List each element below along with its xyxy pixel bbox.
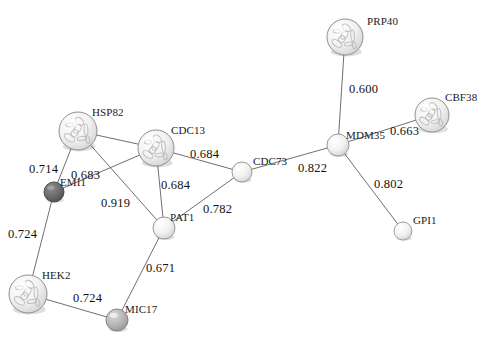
edge-prp40-mdm35[interactable]	[339, 54, 344, 135]
node-highlight	[331, 138, 339, 143]
edge-hsp82-cdc13[interactable]	[96, 135, 140, 145]
edge-score-label: 0.684	[190, 147, 219, 162]
edge-score-label: 0.671	[146, 261, 175, 276]
edge-score-label: 0.714	[29, 162, 58, 177]
node-highlight	[144, 136, 157, 144]
node-highlight	[333, 25, 346, 33]
node-label-mic17: MIC17	[125, 303, 157, 315]
node-circle[interactable]	[394, 222, 412, 240]
node-label-prp40: PRP40	[367, 15, 398, 27]
edge-score-label: 0.802	[374, 177, 403, 192]
node-label-mdm35: MDM35	[346, 129, 385, 141]
node-highlight	[15, 282, 29, 290]
edge-score-label: 0.919	[101, 196, 130, 211]
node-cdc13[interactable]	[138, 130, 174, 167]
node-highlight	[235, 166, 242, 170]
node-label-pat1: PAT1	[170, 211, 194, 223]
node-label-cdc73: CDC73	[253, 155, 287, 167]
node-label-cdc13: CDC13	[171, 124, 205, 136]
node-label-gpi1: GPI1	[413, 214, 437, 226]
node-label-cbf38: CBF38	[445, 91, 477, 103]
node-label-hsp82: HSP82	[92, 106, 124, 118]
node-highlight	[421, 104, 433, 111]
node-cbf38[interactable]	[415, 98, 449, 133]
node-highlight	[110, 313, 118, 318]
edge-score-label: 0.782	[203, 202, 232, 217]
node-highlight	[47, 186, 54, 190]
protein-interaction-network: 0.6000.6630.8020.8220.6840.7820.6840.683…	[0, 0, 487, 347]
node-prp40[interactable]	[327, 19, 363, 56]
edge-score-label: 0.684	[161, 178, 190, 193]
edge-score-label: 0.724	[8, 227, 37, 242]
edge-score-label: 0.600	[349, 82, 378, 97]
edge-score-label: 0.663	[390, 124, 419, 139]
node-highlight	[157, 221, 165, 226]
node-label-hek2: HEK2	[42, 269, 71, 281]
node-cdc73[interactable]	[232, 162, 252, 183]
edge-score-label: 0.724	[73, 291, 102, 306]
edge-score-label: 0.822	[298, 161, 327, 176]
node-label-emi1: EMI1	[60, 176, 86, 188]
node-circle[interactable]	[232, 162, 252, 182]
node-highlight	[397, 225, 403, 229]
node-gpi1[interactable]	[394, 222, 412, 241]
node-highlight	[65, 119, 79, 127]
